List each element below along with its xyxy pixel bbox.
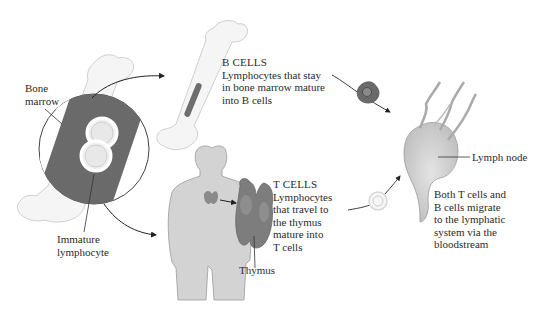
- thymus-label: Thymus: [239, 264, 275, 277]
- bone-marrow-label: Bone marrow: [25, 82, 59, 107]
- immature-lymphocyte-label-line1: Immature: [57, 233, 109, 246]
- lymph-node-label: Lymph node: [472, 151, 527, 164]
- migration-line: bloodstream: [434, 238, 506, 251]
- t-cells-description: T CELLS Lymphocytes that travel to the t…: [273, 178, 332, 253]
- lymph-node-label-text: Lymph node: [472, 151, 527, 164]
- bone-marrow-label-line1: Bone: [25, 82, 59, 95]
- t-cells-line: the thymus: [273, 216, 332, 229]
- bone-marrow-label-line2: marrow: [25, 95, 59, 108]
- t-cells-line: T cells: [273, 241, 332, 254]
- t-cells-line: mature into: [273, 228, 332, 241]
- immature-lymphocyte-label-line2: lymphocyte: [57, 246, 109, 259]
- b-cells-heading: B CELLS: [222, 56, 325, 69]
- b-cells-line: in bone marrow mature: [222, 81, 325, 94]
- migration-line: to the lymphatic: [434, 213, 506, 226]
- b-cells-description: B CELLS Lymphocytes that stay in bone ma…: [222, 56, 325, 106]
- b-cells-line: Lymphocytes that stay: [222, 69, 325, 82]
- t-cells-heading: T CELLS: [273, 178, 332, 191]
- migration-line: system via the: [434, 226, 506, 239]
- thymus-label-text: Thymus: [239, 264, 275, 277]
- migration-description: Both T cells and B cells migrate to the …: [434, 188, 506, 251]
- t-cells-line: that travel to: [273, 203, 332, 216]
- b-cells-line: into B cells: [222, 94, 325, 107]
- t-cells-line: Lymphocytes: [273, 191, 332, 204]
- arrow-to-body: [104, 204, 156, 235]
- migration-line: Both T cells and: [434, 188, 506, 201]
- t-cell: [369, 192, 387, 210]
- b-cell: [357, 82, 379, 103]
- immature-lymphocyte-label: Immature lymphocyte: [57, 233, 109, 258]
- migration-line: B cells migrate: [434, 201, 506, 214]
